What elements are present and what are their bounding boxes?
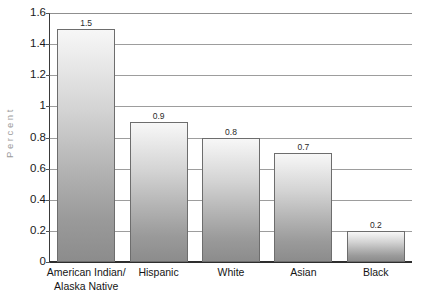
x-axis-category-label-line2: Alaska Native xyxy=(42,280,130,294)
plot-area: 1.50.90.80.70.2 xyxy=(50,13,412,262)
bar-chart: Percent 00.20.40.60.811.21.41.6 1.50.90.… xyxy=(0,0,429,305)
x-axis-category-label-line1: White xyxy=(218,266,245,278)
x-axis-category-label-line1: Black xyxy=(363,266,389,278)
y-axis-tick-mark xyxy=(46,75,50,76)
bar-value-label: 0.8 xyxy=(225,127,237,137)
y-axis-tick-label: 0.8 xyxy=(18,132,46,144)
y-axis-title-text: Percent xyxy=(4,107,15,158)
bar: 0.7 xyxy=(274,153,332,262)
y-axis-tick-mark xyxy=(46,44,50,45)
y-axis-tick-mark xyxy=(46,262,50,263)
y-axis-tick-mark xyxy=(46,231,50,232)
bar-value-label: 0.2 xyxy=(370,220,382,230)
x-axis-category-label: Black xyxy=(332,266,420,280)
bar-value-label: 0.7 xyxy=(297,142,309,152)
y-axis-tick-mark xyxy=(46,13,50,14)
y-axis-tick-label: 0.2 xyxy=(18,225,46,237)
y-axis-tick-mark xyxy=(46,106,50,107)
bar-value-label: 0.9 xyxy=(153,111,165,121)
x-axis-category-label-line1: Hispanic xyxy=(138,266,178,278)
y-axis-tick-mark xyxy=(46,169,50,170)
y-axis-tick-label: 1.6 xyxy=(18,7,46,19)
x-axis-category-label-line1: Asian xyxy=(290,266,316,278)
y-axis-tick-label: 1.2 xyxy=(18,69,46,81)
bar: 0.2 xyxy=(347,231,405,262)
y-axis-tick-mark xyxy=(46,138,50,139)
y-axis-tick-label: 0.4 xyxy=(18,194,46,206)
bar: 0.9 xyxy=(130,122,188,262)
bar-value-label: 1.5 xyxy=(80,18,92,28)
y-axis-tick-labels: 00.20.40.60.811.21.41.6 xyxy=(16,0,46,305)
y-axis-tick-label: 0.6 xyxy=(18,163,46,175)
bar: 1.5 xyxy=(57,29,115,262)
x-axis-category-labels: American Indian/Alaska NativeHispanicWhi… xyxy=(50,266,412,305)
y-axis-tick-label: 1.4 xyxy=(18,38,46,50)
bar: 0.8 xyxy=(202,138,260,263)
gridline xyxy=(50,13,412,14)
y-axis-tick-mark xyxy=(46,200,50,201)
y-axis-tick-label: 1 xyxy=(18,100,46,112)
